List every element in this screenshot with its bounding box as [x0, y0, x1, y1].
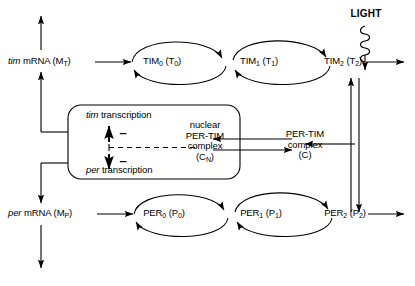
per1-paren-open: (P	[263, 207, 275, 218]
nuclear-complex-paren-open: (C	[196, 151, 206, 162]
tim-transcription-gene-italic: tim	[86, 109, 98, 120]
tim0-paren-close: )	[178, 55, 181, 66]
tim-transcription-label: tim transcription	[86, 110, 151, 121]
per1-to-per0-reverse-arc	[136, 218, 228, 237]
nuclear-per-tim-complex-label: nuclear PER-TIM complex (CN)	[186, 120, 224, 163]
per-inhibition-minus-sign: –	[119, 154, 126, 167]
tim1-paren-close: )	[275, 55, 278, 66]
tim2-paren-open: (T	[344, 55, 355, 66]
tim-mrna-gene-italic: tim	[8, 55, 20, 66]
tim2-paren-close: )	[359, 55, 362, 66]
tim2-node-label: TIM2 (T2)	[324, 56, 362, 67]
circadian-pathway-diagram: LIGHT tim mRNA (MT) TIM0 (T0) TIM1 (T1) …	[0, 0, 415, 286]
tim1-paren-open: (T	[260, 55, 271, 66]
tim-transcription-rest: transcription	[98, 109, 151, 120]
per0-node-label: PER0 (P0)	[143, 208, 185, 219]
per0-paren-open: (P	[166, 207, 178, 218]
per2-paren-open: (P	[347, 207, 359, 218]
cytoplasmic-per-tim-complex-label: PER-TIM complex (C)	[286, 129, 324, 161]
tim0-name: TIM	[143, 55, 159, 66]
nuclear-complex-line4: (CN)	[186, 152, 224, 163]
per1-node-label: PER1 (P1)	[240, 208, 282, 219]
per-transcription-gene-italic: per	[86, 164, 99, 175]
tim1-to-tim0-reverse-arc	[134, 66, 226, 85]
per1-name: PER	[240, 207, 259, 218]
light-label: LIGHT	[351, 8, 382, 19]
tim-inhibition-minus-sign: –	[119, 126, 126, 139]
tim0-paren-open: (T	[163, 55, 174, 66]
per-mrna-label: per mRNA (MP)	[8, 208, 72, 219]
tim-mrna-label-rest: mRNA (M	[20, 55, 63, 66]
per2-to-per1-reverse-arc	[237, 218, 332, 237]
tim0-node-label: TIM0 (T0)	[143, 56, 181, 67]
tim-mrna-label-close: )	[68, 55, 71, 66]
per-mrna-gene-italic: per	[8, 207, 21, 218]
per1-paren-close: )	[279, 207, 282, 218]
tim-mrna-label: tim mRNA (MT)	[8, 56, 71, 67]
tim1-node-label: TIM1 (T1)	[240, 56, 278, 67]
per2-node-label: PER2 (P2)	[324, 208, 366, 219]
per0-paren-close: )	[182, 207, 185, 218]
tim1-name: TIM	[240, 55, 256, 66]
per-mrna-label-close: )	[69, 207, 72, 218]
tim2-to-tim1-reverse-arc	[235, 66, 330, 85]
tim2-name: TIM	[324, 55, 340, 66]
nuclear-complex-paren-close: )	[211, 151, 214, 162]
cyto-complex-line3: (C)	[286, 150, 324, 161]
per2-name: PER	[324, 207, 343, 218]
per0-name: PER	[143, 207, 162, 218]
per2-paren-close: )	[363, 207, 366, 218]
per-mrna-label-rest: mRNA (M	[21, 207, 64, 218]
